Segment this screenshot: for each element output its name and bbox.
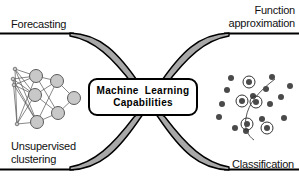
label-classification: Classification: [232, 158, 294, 171]
label-function-approximation: Function approximation: [205, 4, 295, 30]
label-forecasting: Forecasting: [11, 18, 66, 31]
label-unsupervised-line2: clustering: [11, 153, 56, 165]
center-box-line1: Machine Learning: [97, 85, 190, 97]
machine-learning-capabilities-figure: Forecasting Function approximation Unsup…: [0, 0, 299, 186]
center-box: Machine Learning Capabilities: [88, 78, 198, 116]
classification-scatter-icon: [216, 74, 293, 140]
label-function-line2: approximation: [229, 17, 296, 29]
neural-network-icon: [11, 67, 80, 128]
center-box-line2: Capabilities: [113, 97, 173, 109]
label-unsupervised-line1: Unsupervised: [11, 140, 76, 152]
label-unsupervised-clustering: Unsupervised clustering: [11, 140, 106, 166]
label-function-line1: Function: [254, 4, 295, 16]
